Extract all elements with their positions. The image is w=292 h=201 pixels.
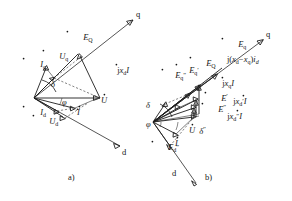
panel-a-d-axis-label: d: [122, 147, 127, 157]
panel-a-u-phasor: [34, 96, 100, 101]
panel-b-delta-dprime-label: δ″: [180, 123, 221, 136]
panel-b-i-phasor: [153, 122, 178, 137]
panel-a-caption: a): [68, 172, 75, 182]
panel-b-eq-dprime-label: Eq″: [156, 69, 201, 81]
svg-text:Ed″: Ed″: [149, 141, 194, 153]
panel-b-caption: b): [205, 172, 212, 182]
panel-a-jxdi-label: jxdI: [98, 64, 144, 76]
svg-text:I: I: [76, 107, 81, 117]
panel-b-ed-dprime-label: Ed″: [149, 141, 194, 153]
phasor-diagram-figure: q d: [0, 0, 292, 201]
svg-text:jxdI: jxdI: [98, 65, 144, 76]
svg-text:Ud: Ud: [30, 116, 73, 128]
svg-text:EQ: EQ: [64, 32, 108, 44]
svg-text:Eq″: Eq″: [156, 69, 201, 81]
panel-b-eq-bar-label: Eq: [219, 38, 261, 51]
panel-a-eq-label: EQ: [64, 31, 108, 44]
panel-a-u-label: U: [101, 94, 108, 105]
panel-a: q d: [21, 9, 144, 182]
panel-a-q-axis-label: q: [136, 9, 141, 19]
svg-text:jxd′I: jxd′I: [214, 96, 262, 107]
panel-b-eq-dprime-phasor: [153, 93, 191, 122]
panel-b-delta-dprime-arc: [176, 122, 178, 130]
panel-b-jxqi-label: jxqI: [203, 77, 249, 89]
panel-b-d-axis-label: d: [172, 168, 177, 178]
panel-b-delta-label: δ: [146, 100, 151, 110]
panel-a-delta-label: δ: [51, 79, 56, 89]
svg-text:Eq: Eq: [219, 39, 261, 51]
panel-b-jxdpi-label: jxd′I: [214, 95, 262, 107]
panel-b-phi-label: φ: [146, 119, 151, 129]
svg-text:Iq: Iq: [21, 59, 61, 71]
panel-a-i-label: I: [76, 106, 81, 117]
svg-text:jxd″I: jxd″I: [208, 111, 257, 122]
svg-text:δ″: δ″: [180, 123, 221, 136]
panel-a-phi-label: φ: [62, 97, 67, 107]
panel-b: q d: [146, 29, 271, 186]
svg-text:U: U: [101, 95, 108, 105]
svg-text:jxqI: jxqI: [203, 78, 249, 89]
panel-b-q-axis-label: q: [266, 29, 271, 39]
panel-b-construction-dash-1: [165, 94, 189, 104]
panel-b-jxddi-label: jxd″I: [208, 110, 257, 122]
